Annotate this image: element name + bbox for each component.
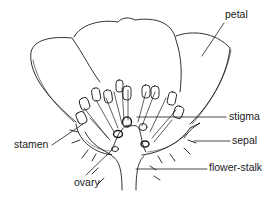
petal-center — [74, 18, 181, 92]
sepal-right — [142, 123, 200, 163]
leader-stamen — [52, 124, 83, 145]
label-ovary: ovary — [74, 177, 100, 188]
leader-ovary — [86, 150, 112, 175]
flower-diagram: petal stigma sepal flower-stalk stamen o… — [0, 0, 276, 203]
label-stigma: stigma — [229, 111, 260, 122]
sepal-left — [70, 124, 112, 161]
petal-left — [31, 38, 100, 122]
leader-lines — [52, 23, 230, 175]
label-petal: petal — [225, 9, 248, 20]
label-sepal: sepal — [232, 135, 257, 146]
label-stamen: stamen — [14, 139, 48, 150]
stamens — [75, 80, 185, 142]
leader-petal — [202, 23, 224, 56]
label-flower-stalk: flower-stalk — [209, 162, 262, 173]
receptacle-and-stalk — [92, 125, 160, 190]
